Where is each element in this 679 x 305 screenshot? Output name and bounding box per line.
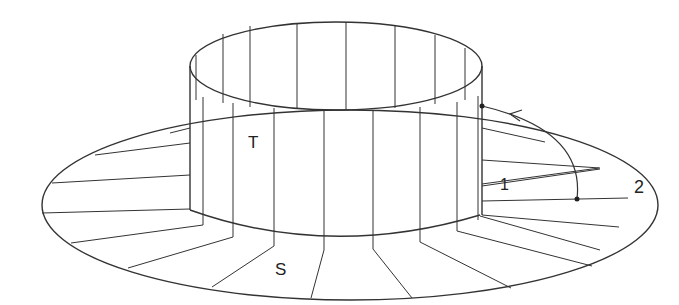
point-on-cylinder [480,104,485,109]
label-cylinder-T: T [248,133,258,153]
arrow-head-icon [510,110,522,121]
cylinder-top-rim [190,22,482,110]
point-on-annulus [575,197,580,202]
annulus-outer-rim [42,110,658,300]
cylinder-annulus-diagram [0,0,679,305]
arc-path [482,106,578,199]
label-point-2: 2 [634,177,644,198]
label-point-1: 1 [500,176,509,194]
label-annulus-S: S [275,260,286,280]
